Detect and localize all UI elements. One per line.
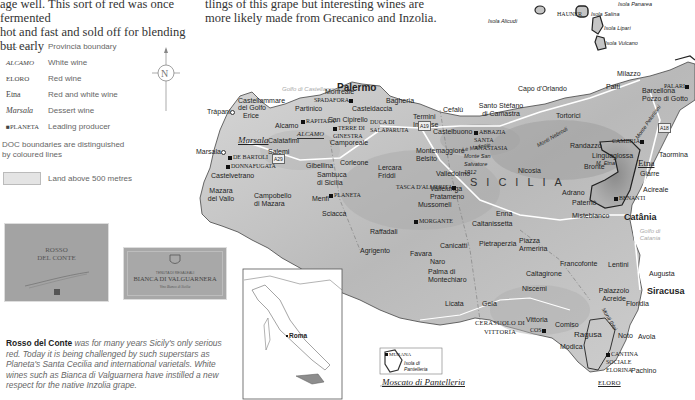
producer-icon bbox=[385, 353, 388, 356]
map-label-sambuca: Sambuca di Sicilia bbox=[317, 171, 347, 187]
producer-hauner: HAUNER bbox=[557, 10, 582, 18]
map-label-menfi: Menfi bbox=[312, 195, 329, 203]
map-label-piazza-armerina: Piazza Armerina bbox=[519, 237, 553, 253]
isola-filicudi bbox=[535, 6, 545, 14]
map-label-noto: Noto bbox=[618, 332, 633, 340]
map-label-gibellina: Gibellina bbox=[306, 162, 333, 170]
map-label-gela: Gela bbox=[482, 300, 497, 308]
map-label-erice: Erice bbox=[243, 112, 259, 120]
map-label-partinico: Partinico bbox=[295, 105, 322, 113]
map-label-isola-pantelleria: Isola di Pantelleria bbox=[404, 360, 434, 372]
doc-label-alcamo: ALCAMO bbox=[297, 130, 324, 139]
map-label-golfo-catania: Golfo di Catania bbox=[633, 228, 667, 242]
map-label-sicilia: SICILIA bbox=[470, 178, 571, 186]
map-label-isola-panarea: Isola Panarea bbox=[618, 0, 652, 8]
map-label-siracusa: Siracusa bbox=[647, 287, 685, 295]
map-label-campobello: Campobello di Mazara bbox=[254, 192, 292, 208]
doc-label-eloro: ELORO bbox=[598, 379, 621, 387]
map-label-licata: Licata bbox=[445, 300, 464, 308]
map-label-corleone: Corleone bbox=[340, 159, 368, 167]
map-label-comiso: Comiso bbox=[555, 321, 579, 329]
map-label-niscemi: Niscemi bbox=[522, 285, 547, 293]
producer-planeta: PLANETA bbox=[329, 191, 361, 199]
map-label-paterno: Paternò bbox=[572, 199, 597, 207]
map-label-patti: Patti bbox=[606, 83, 620, 91]
map-label-adrano: Adrano bbox=[562, 189, 585, 197]
map-label-tortorici: Tortorici bbox=[556, 112, 581, 120]
map-label-acireale: Acireale bbox=[643, 186, 668, 194]
map-label-caltagirone: Caltagirone bbox=[526, 270, 562, 278]
producer-rapitala: RAPITALÀ bbox=[301, 117, 335, 125]
map-label-favara: Favara bbox=[410, 250, 432, 258]
producer-cantina-sociale-elorina: CANTINA SOCIALE ELORINA bbox=[606, 350, 656, 374]
map-label-agrigento: Agrigento bbox=[360, 247, 390, 255]
map-label-ragusa: Ragusa bbox=[574, 331, 602, 339]
map-label-monte-san-salvatore: Monte San Salvatore 1912 bbox=[464, 152, 498, 176]
producer-cambria: CAMBRIA bbox=[612, 137, 645, 145]
map-label-montemaggiore: Montemaggiore Belsito bbox=[416, 147, 466, 163]
map-label-milazzo: Milazzo bbox=[617, 70, 641, 78]
map-label-raffadali: Raffadali bbox=[370, 228, 398, 236]
map-label-avola: Avola bbox=[638, 333, 655, 341]
map-label-calatafimi: Calatafimi bbox=[268, 137, 299, 145]
doc-label-cerasuolo: CERASUOLO DI VITTORIA bbox=[470, 318, 530, 336]
map-label-isola-vulcano: Isola Vulcano bbox=[605, 39, 638, 47]
map-label-mussomeli: Mussomeli bbox=[418, 201, 451, 209]
map-label-castelbuono: Castelbuono bbox=[433, 128, 472, 136]
capital-icon bbox=[286, 335, 288, 337]
map-label-roma: Roma bbox=[286, 332, 307, 340]
map-label-marsala-town: Marsala bbox=[196, 148, 227, 156]
doc-label-etna: Etna bbox=[638, 159, 655, 167]
map-label-taormina: Taormina bbox=[659, 151, 688, 159]
road-label-a19: A19 bbox=[418, 121, 431, 131]
map-label-bagheria: Bagheria bbox=[386, 97, 414, 105]
map-label-camporeale: Camporeale bbox=[330, 139, 368, 147]
map-label-cefalu: Cefalù bbox=[443, 106, 463, 114]
road-label-a29: A29 bbox=[272, 154, 285, 164]
producer-abbazia-santa-anastasia: ABBAZIA SANTA ANASTASIA bbox=[474, 128, 510, 152]
isola-lipari bbox=[592, 16, 603, 34]
producer-duca-di-salaparuta: DUCA DI SALAPARUTA bbox=[370, 118, 410, 134]
map-label-alcamo-town: Alcamo bbox=[275, 122, 298, 130]
map-label-capo-orlando: Capo d'Orlando bbox=[518, 85, 567, 93]
producer-benanti: BENANTI bbox=[614, 194, 645, 202]
map-label-m-etna: M. Etna bbox=[596, 159, 615, 167]
map-label-randazzo: Randazzo bbox=[570, 142, 602, 150]
map-label-castelvetrano: Castelvetrano bbox=[211, 172, 254, 180]
map-label-isola-salina: Isola Salina bbox=[591, 10, 619, 18]
map-label-catania: Catânia bbox=[624, 213, 657, 221]
producer-donnafugata: DONNAFUGATA bbox=[226, 162, 276, 170]
map-label-caltanissetta: Caltanissetta bbox=[472, 220, 512, 228]
map-label-nicosia: Nicosia bbox=[518, 167, 541, 175]
map-label-trapani: Trápani bbox=[207, 108, 236, 116]
map-label-modica: Modica bbox=[560, 343, 583, 351]
producer-spadafora: SPADAFORA bbox=[314, 96, 354, 104]
map-label-giarre: Giarre bbox=[640, 170, 659, 178]
doc-title-moscato-di-pantelleria: Moscato di Pantelleria bbox=[382, 378, 465, 386]
map-label-enna: Enna bbox=[496, 210, 512, 218]
map-label-isola-alicudi: Isola Alicudi bbox=[488, 17, 517, 25]
producer-morgante: MORGANTE bbox=[414, 217, 453, 225]
map-label-augusta: Augusta bbox=[649, 270, 675, 278]
map-label-castellammare: Castellammare del Golfo bbox=[238, 97, 288, 111]
map-label-francofonte: Francofonte bbox=[560, 260, 597, 268]
map-label-mazara: Mazara del Vallo bbox=[204, 187, 238, 203]
road-label-a18: A18 bbox=[658, 123, 671, 133]
map-label-pietraperzia: Pietraperzia bbox=[479, 240, 516, 248]
producer-murana: MURANA bbox=[385, 351, 411, 359]
map-label-palma: Palma di Montechiaro bbox=[428, 268, 462, 284]
producer-de-bartoli: DE BARTOLI bbox=[228, 153, 268, 161]
map-label-canicatti: Canicattì bbox=[440, 242, 468, 250]
map-label-casteldaccia: Casteldaccia bbox=[352, 105, 392, 113]
map-label-santo-stefano: Santo Stéfano di Camastra bbox=[476, 102, 526, 118]
map-label-mistebianco: Mistebianco bbox=[572, 212, 609, 220]
producer-tasca-dalmerita: TASCA D'ALMERITA bbox=[396, 183, 457, 191]
producer-palari: PALARI bbox=[664, 82, 690, 90]
map-label-lentini: Lentini bbox=[608, 261, 629, 269]
producer-cos: COS bbox=[530, 326, 547, 334]
map-label-naro: Naro bbox=[430, 258, 445, 266]
map-label-isola-lipari: Isola Lipari bbox=[604, 24, 631, 32]
map-label-lercara: Lercara Friddi bbox=[378, 164, 406, 180]
map-label-floridia: Floridia bbox=[626, 300, 649, 308]
doc-label-marsala: Marsala bbox=[238, 136, 269, 144]
